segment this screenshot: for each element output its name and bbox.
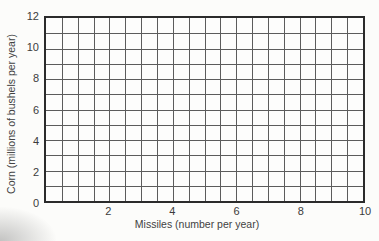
x-tick-label: 4 — [160, 205, 184, 217]
x-axis-title: Missiles (number per year) — [37, 218, 357, 230]
x-tick-label: 6 — [225, 205, 249, 217]
grid-line-horizontal — [46, 171, 363, 172]
grid-line-horizontal — [46, 186, 363, 187]
grid-line-horizontal — [46, 94, 363, 95]
x-tick-label: 10 — [353, 205, 377, 217]
chart: Corn (millions of bushels per year) 0246… — [0, 0, 379, 241]
grid-line-horizontal — [46, 49, 363, 50]
y-tick-label: 4 — [13, 135, 39, 147]
x-tick-label: 8 — [289, 205, 313, 217]
grid-line-horizontal — [46, 110, 363, 111]
grid-line-horizontal — [46, 79, 363, 80]
grid-line-horizontal — [46, 33, 363, 34]
y-tick-label: 10 — [13, 41, 39, 53]
grid-line-horizontal — [46, 125, 363, 126]
y-tick-label: 8 — [13, 72, 39, 84]
grid-line-horizontal — [46, 140, 363, 141]
y-tick-label: 0 — [13, 197, 39, 209]
grid-line-horizontal — [46, 155, 363, 156]
x-tick-label: 2 — [96, 205, 120, 217]
y-tick-label: 2 — [13, 166, 39, 178]
y-tick-label: 6 — [13, 104, 39, 116]
plot-area — [44, 16, 365, 203]
grid-line-horizontal — [46, 64, 363, 65]
y-tick-label: 12 — [13, 10, 39, 22]
